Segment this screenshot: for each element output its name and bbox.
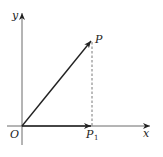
vector-op [22,41,91,126]
x-axis-label: x [143,127,150,140]
point-p-label: P [94,33,103,46]
vector-diagram: y x O P P 1 [0,0,163,157]
origin-label: O [10,128,19,141]
point-p1-label: P [85,128,94,141]
point-p1-subscript: 1 [94,134,98,142]
y-axis-label: y [11,9,19,22]
